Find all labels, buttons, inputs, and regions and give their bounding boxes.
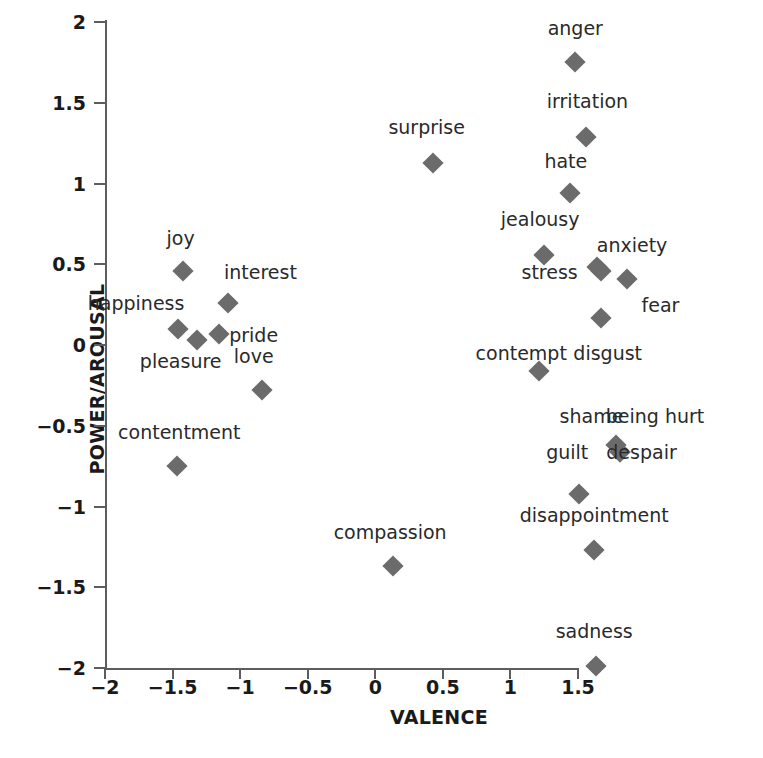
data-point-marker [584, 539, 605, 560]
data-point-marker [569, 483, 590, 504]
data-point-label: pride [229, 324, 278, 346]
y-tick-mark [94, 21, 105, 23]
y-tick-mark [94, 263, 105, 265]
y-tick-mark [94, 586, 105, 588]
data-point-marker [167, 318, 188, 339]
y-tick-label: 2 [0, 11, 86, 33]
y-tick-label: −1.5 [0, 576, 86, 598]
x-tick-label: 1 [504, 676, 517, 698]
y-tick-label: 0 [0, 334, 86, 356]
data-point-marker [251, 380, 272, 401]
data-point-marker [382, 556, 403, 577]
x-tick-label: −2 [90, 676, 119, 698]
data-point-label: contempt [476, 342, 567, 364]
y-tick-label: 1 [0, 173, 86, 195]
scatter-plot-figure: POWER/AROUSAL 21.510.50−0.5−1−1.5−2−2−1.… [0, 0, 763, 758]
data-point-marker [559, 183, 580, 204]
y-tick-mark [94, 344, 105, 346]
y-tick-mark [94, 506, 105, 508]
data-point-label: sadness [556, 620, 633, 642]
data-point-marker [575, 126, 596, 147]
data-point-marker [186, 330, 207, 351]
data-point-label: anger [548, 17, 603, 39]
data-point-marker [616, 268, 637, 289]
data-point-label: pleasure [140, 350, 222, 372]
x-axis-label-wrap: VALENCE [0, 706, 763, 728]
data-point-label: stress [521, 261, 577, 283]
x-tick-label: 0 [369, 676, 382, 698]
data-point-label: disgust [573, 342, 642, 364]
data-point-label: joy [167, 227, 195, 249]
y-tick-label: 0.5 [0, 253, 86, 275]
data-point-marker [585, 656, 606, 677]
data-point-label: love [234, 345, 274, 367]
y-tick-mark [94, 183, 105, 185]
y-axis-line [105, 20, 107, 670]
data-point-label: interest [224, 261, 297, 283]
data-point-label: happiness [88, 292, 185, 314]
data-point-label: contentment [118, 421, 240, 443]
x-tick-label: 1.5 [561, 676, 595, 698]
data-point-label: despair [606, 441, 676, 463]
x-tick-label: −1.5 [148, 676, 198, 698]
data-point-label: being hurt [606, 405, 705, 427]
data-point-label: hate [544, 150, 587, 172]
data-point-marker [208, 323, 229, 344]
data-point-label: compassion [334, 521, 447, 543]
data-point-label: anxiety [597, 234, 668, 256]
x-tick-label: −0.5 [283, 676, 333, 698]
data-point-marker [565, 52, 586, 73]
x-tick-label: 0.5 [426, 676, 460, 698]
x-tick-label: −1 [226, 676, 255, 698]
y-tick-label: −0.5 [0, 415, 86, 437]
y-tick-label: −2 [0, 657, 86, 679]
data-point-label: irritation [547, 90, 628, 112]
data-point-label: fear [642, 294, 680, 316]
y-tick-label: −1 [0, 496, 86, 518]
data-point-marker [590, 307, 611, 328]
data-point-marker [423, 152, 444, 173]
data-point-marker [217, 292, 238, 313]
data-point-label: jealousy [501, 208, 580, 230]
x-axis-label: VALENCE [390, 706, 488, 728]
x-axis-line [104, 668, 579, 670]
y-tick-mark [94, 425, 105, 427]
data-point-label: disappointment [520, 504, 669, 526]
data-point-label: surprise [388, 116, 465, 138]
y-tick-label: 1.5 [0, 92, 86, 114]
y-tick-mark [94, 102, 105, 104]
data-point-marker [173, 260, 194, 281]
data-point-marker [166, 456, 187, 477]
data-point-label: guilt [546, 441, 588, 463]
